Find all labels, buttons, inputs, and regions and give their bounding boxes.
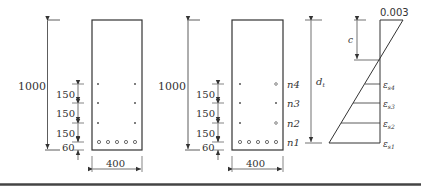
spacing-label: 60 <box>62 142 75 153</box>
spacing-label: 60 <box>202 142 215 153</box>
strain-label-s4: εs4 <box>383 80 395 91</box>
c-label: c <box>348 35 353 45</box>
beam-section-diagram: 1000 150 <box>0 0 421 186</box>
dt-label: dt <box>316 76 325 88</box>
spacing-label: 150 <box>196 128 215 139</box>
width-label: 400 <box>106 158 125 169</box>
spacing-label: 150 <box>56 128 75 139</box>
height-label: 1000 <box>158 80 186 93</box>
rebar-layer-3 <box>97 102 136 104</box>
rebar-layer-3 <box>239 102 277 104</box>
width-label: 400 <box>246 158 265 169</box>
spacing-label: 150 <box>56 89 75 100</box>
strain-label-s2: εs2 <box>383 119 395 130</box>
section-1: 1000 150 <box>18 20 142 172</box>
layer-label-n3: n3 <box>287 98 300 109</box>
rebar-layer-1 <box>97 140 136 143</box>
spacing-label: 150 <box>56 108 75 119</box>
rebar-layer-4 <box>239 83 277 86</box>
height-label: 1000 <box>18 80 46 93</box>
strain-label-s1: εs1 <box>383 139 395 150</box>
spacing-label: 150 <box>196 108 215 119</box>
strain-label-s3: εs3 <box>383 99 395 110</box>
rebar-layer-4 <box>97 83 136 85</box>
layer-label-n1: n1 <box>287 137 300 148</box>
rebar-layer-2 <box>239 122 277 125</box>
layer-label-n4: n4 <box>287 79 300 90</box>
layer-label-n2: n2 <box>287 118 300 129</box>
rebar-layer-1 <box>238 140 277 143</box>
strain-diagram: dt c 0.003 εs4 εs3 εs2 εs1 <box>305 7 409 150</box>
rebar-layer-2 <box>97 122 136 124</box>
top-strain-label: 0.003 <box>380 7 409 18</box>
section-2: 1000 n4 n3 n2 n1 <box>158 20 300 172</box>
beam-outline <box>92 20 142 150</box>
spacing-label: 150 <box>196 89 215 100</box>
